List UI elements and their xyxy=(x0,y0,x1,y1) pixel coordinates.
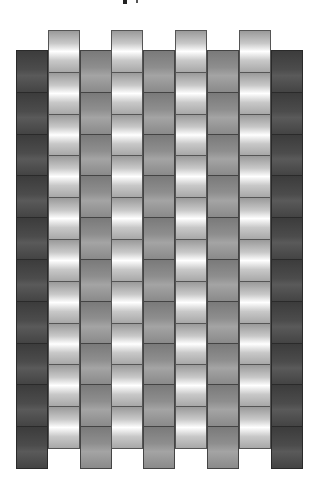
weave-cell xyxy=(80,426,112,469)
weave-cell xyxy=(239,323,271,366)
weave-cell xyxy=(111,239,143,282)
weave-cell xyxy=(80,301,112,344)
weave-cell xyxy=(175,30,207,73)
weave-cell xyxy=(271,301,303,344)
weave-column-gray xyxy=(207,50,239,468)
weave-cell xyxy=(207,217,239,260)
weave-cell xyxy=(48,281,80,324)
weave-cell xyxy=(48,197,80,240)
weave-cell xyxy=(16,134,48,177)
weave-cell xyxy=(16,426,48,469)
weave-cell xyxy=(80,134,112,177)
weave-cell xyxy=(239,364,271,407)
weave-cell xyxy=(80,92,112,135)
weave-cell xyxy=(271,50,303,93)
weave-cell xyxy=(80,217,112,260)
weave-cell xyxy=(239,155,271,198)
weave-cell xyxy=(111,30,143,73)
weave-cell xyxy=(207,92,239,135)
weave-cell xyxy=(48,406,80,449)
weave-column-light xyxy=(111,30,143,448)
weave-cell xyxy=(16,50,48,93)
weave-cell xyxy=(271,217,303,260)
weave-column-light xyxy=(239,30,271,448)
weave-cell xyxy=(239,406,271,449)
weave-cell xyxy=(111,364,143,407)
weave-cell xyxy=(207,134,239,177)
weave-cell xyxy=(111,281,143,324)
weave-cell xyxy=(175,323,207,366)
weave-cell xyxy=(143,301,175,344)
weave-column-dark xyxy=(271,50,303,468)
cropped-title-fragment xyxy=(123,0,127,4)
weave-cell xyxy=(175,239,207,282)
weave-cell xyxy=(111,72,143,115)
weave-cell xyxy=(143,343,175,386)
weave-cell xyxy=(80,50,112,93)
weave-cell xyxy=(175,155,207,198)
weave-cell xyxy=(48,155,80,198)
weave-cell xyxy=(239,72,271,115)
weave-cell xyxy=(48,72,80,115)
weave-cell xyxy=(271,384,303,427)
weave-cell xyxy=(239,30,271,73)
weave-cell xyxy=(48,30,80,73)
weave-cell xyxy=(16,175,48,218)
weave-cell xyxy=(207,343,239,386)
weave-column-gray xyxy=(143,50,175,468)
weave-cell xyxy=(16,217,48,260)
weave-cell xyxy=(271,134,303,177)
weave-cell xyxy=(207,426,239,469)
weave-cell xyxy=(143,217,175,260)
weave-cell xyxy=(271,175,303,218)
weave-cell xyxy=(80,384,112,427)
weave-cell xyxy=(207,175,239,218)
weave-cell xyxy=(111,197,143,240)
weave-cell xyxy=(143,426,175,469)
weave-cell xyxy=(175,72,207,115)
weave-cell xyxy=(48,114,80,157)
weave-cell xyxy=(143,384,175,427)
weave-column-light xyxy=(48,30,80,448)
weave-cell xyxy=(207,259,239,302)
weave-cell xyxy=(16,343,48,386)
weave-cell xyxy=(48,239,80,282)
weave-cell xyxy=(143,50,175,93)
weave-cell xyxy=(175,364,207,407)
weave-column-gray xyxy=(80,50,112,468)
weave-cell xyxy=(143,134,175,177)
weave-cell xyxy=(207,301,239,344)
weave-column-dark xyxy=(16,50,48,468)
weave-cell xyxy=(16,259,48,302)
weave-cell xyxy=(207,384,239,427)
weave-cell xyxy=(239,239,271,282)
weave-cell xyxy=(175,281,207,324)
weave-cell xyxy=(111,155,143,198)
weave-column-light xyxy=(175,30,207,448)
weave-cell xyxy=(239,281,271,324)
weave-cell xyxy=(271,92,303,135)
weave-cell xyxy=(175,197,207,240)
weave-cell xyxy=(111,323,143,366)
weave-cell xyxy=(271,426,303,469)
weave-cell xyxy=(143,92,175,135)
weave-cell xyxy=(16,384,48,427)
weave-cell xyxy=(271,259,303,302)
weave-cell xyxy=(16,92,48,135)
weave-cell xyxy=(207,50,239,93)
weave-cell xyxy=(111,406,143,449)
weave-cell xyxy=(48,323,80,366)
weave-cell xyxy=(48,364,80,407)
cropped-title-fragment xyxy=(136,0,138,3)
weave-cell xyxy=(80,259,112,302)
weave-cell xyxy=(175,406,207,449)
weave-cell xyxy=(143,259,175,302)
weave-cell xyxy=(271,343,303,386)
weave-cell xyxy=(239,197,271,240)
weave-cell xyxy=(175,114,207,157)
weave-cell xyxy=(80,175,112,218)
weave-cell xyxy=(239,114,271,157)
weave-cell xyxy=(143,175,175,218)
weave-cell xyxy=(16,301,48,344)
weave-cell xyxy=(80,343,112,386)
